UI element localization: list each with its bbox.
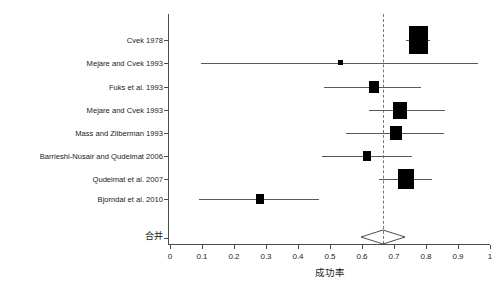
x-tick: [362, 245, 363, 249]
x-tick-label: 1: [475, 253, 499, 261]
study-label: Barrieshi-Nusair and Qudeimat 2006: [40, 153, 163, 161]
x-tick: [170, 245, 171, 249]
study-label: Qudeimat et al. 2007: [93, 176, 164, 184]
y-axis-line: [168, 14, 169, 244]
x-tick: [426, 245, 427, 249]
y-tick: [164, 238, 168, 239]
y-tick: [164, 87, 168, 88]
study-label: Mejare and Cvek 1993: [87, 107, 163, 115]
x-tick-label: 0.3: [251, 253, 281, 261]
x-tick: [490, 245, 491, 249]
study-label: Mass and Zilberman 1993: [75, 130, 163, 138]
y-tick: [164, 156, 168, 157]
x-tick: [266, 245, 267, 249]
y-tick: [164, 40, 168, 41]
study-marker: [409, 26, 428, 54]
x-axis-line: [168, 244, 490, 245]
study-marker: [363, 151, 371, 161]
x-tick-label: 0.8: [411, 253, 441, 261]
study-marker: [390, 126, 402, 140]
x-tick-label: 0: [155, 253, 185, 261]
x-tick-label: 0.4: [283, 253, 313, 261]
y-tick: [164, 179, 168, 180]
x-tick: [394, 245, 395, 249]
study-marker: [256, 194, 264, 204]
study-label: Mejare and Cvek 1993: [87, 60, 163, 68]
y-tick: [164, 63, 168, 64]
y-tick: [164, 133, 168, 134]
x-axis-title: 成功率: [300, 268, 360, 278]
study-marker: [393, 102, 407, 119]
y-tick: [164, 110, 168, 111]
study-label: Fuks et al. 1993: [109, 84, 163, 92]
x-tick-label: 0.9: [443, 253, 473, 261]
x-tick-label: 0.7: [379, 253, 409, 261]
study-marker: [398, 169, 414, 189]
ci-line: [369, 110, 445, 111]
study-marker: [338, 60, 343, 65]
reference-line: [383, 14, 384, 244]
summary-diamond: [360, 228, 406, 246]
study-label: Cvek 1978: [127, 37, 163, 45]
x-tick-label: 0.2: [219, 253, 249, 261]
study-marker: [369, 81, 379, 93]
summary-label: 合并: [145, 232, 163, 241]
x-tick: [202, 245, 203, 249]
x-tick-label: 0.1: [187, 253, 217, 261]
x-tick: [234, 245, 235, 249]
forest-plot: Cvek 1978 Mejare and Cvek 1993 Fuks et a…: [0, 0, 499, 291]
y-tick: [164, 199, 168, 200]
study-label: Bjorndal et al. 2010: [98, 196, 163, 204]
x-tick-label: 0.5: [315, 253, 345, 261]
x-tick: [330, 245, 331, 249]
x-tick: [298, 245, 299, 249]
x-tick-label: 0.6: [347, 253, 377, 261]
x-tick: [458, 245, 459, 249]
